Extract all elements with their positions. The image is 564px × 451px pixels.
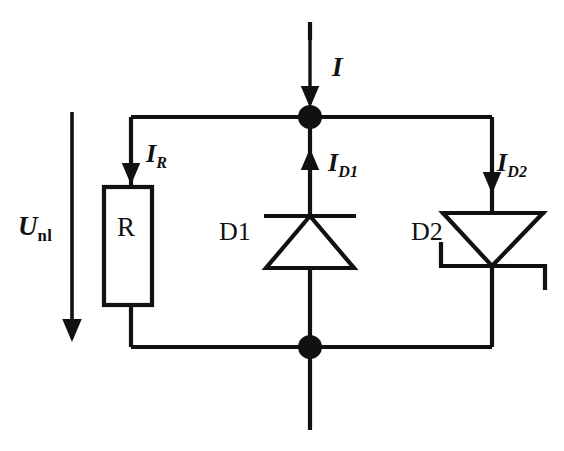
circuit-diagram: Unl I IR ID1 ID2 D1 D2 R [0,0,564,451]
label-source-voltage-subscript: nl [38,226,53,245]
label-resistor-ref: R [117,214,135,241]
label-total-current-symbol: I [332,52,343,82]
diode2-anode-triangle [443,213,543,266]
label-total-current: I [332,54,343,81]
label-source-voltage: Unl [18,213,52,240]
label-diode2-current: ID2 [497,150,527,176]
label-diode1-current-subscript: D1 [338,163,358,180]
label-diode2-current-subscript: D2 [507,163,527,180]
label-diode1-current-symbol: I [328,148,338,177]
diode1-symbol [264,216,356,268]
label-resistor-current: IR [146,141,167,167]
label-resistor-current-subscript: R [156,154,167,171]
diode1-anode-triangle [266,216,354,268]
label-diode2-current-symbol: I [497,148,507,177]
circuit-schematic-svg [0,0,564,451]
label-resistor-current-symbol: I [146,139,156,168]
label-diode1-ref: D1 [219,219,251,245]
label-diode1-current: ID1 [328,150,358,176]
label-source-voltage-symbol: U [18,211,38,241]
junction-dot-bottom [298,335,322,359]
label-diode2-ref: D2 [411,219,443,245]
resistor-body [104,187,152,305]
junction-dot-top [298,105,322,129]
